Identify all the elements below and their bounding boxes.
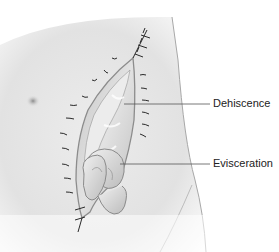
wound-illustration	[0, 0, 279, 252]
navel	[26, 95, 40, 107]
evisceration-label: Evisceration	[213, 157, 273, 169]
dehiscence-label: Dehiscence	[213, 97, 270, 109]
